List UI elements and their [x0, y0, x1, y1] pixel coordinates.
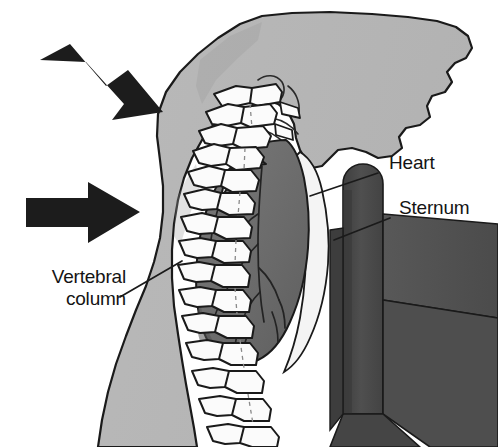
vertebra	[184, 189, 255, 215]
vertebra	[181, 213, 252, 239]
sternum-flange-lower	[383, 300, 498, 447]
force-arrows	[26, 44, 163, 243]
vertebra	[182, 313, 254, 338]
vertebra	[179, 238, 251, 263]
vertebra	[206, 104, 277, 127]
label-vertebral-column-line-1: Vertebral	[52, 266, 126, 287]
label-vertebral-column-line-2: column	[66, 288, 126, 309]
illustration-canvas	[0, 0, 498, 447]
anatomical-illustration: Heart Sternum Vertebral column	[0, 0, 498, 447]
vertebra	[186, 340, 258, 365]
vertebra	[193, 144, 264, 170]
sternum-edge-left	[330, 228, 343, 430]
vertebra	[199, 396, 271, 421]
vertebra	[207, 424, 279, 447]
sternum-shadow-left	[343, 190, 352, 414]
force-arrow-lower	[26, 182, 140, 243]
vertebra	[192, 368, 264, 393]
force-arrow-upper	[40, 44, 163, 120]
vertebra	[179, 287, 251, 312]
vertebra	[178, 262, 250, 287]
label-heart: Heart	[389, 152, 434, 174]
label-sternum: Sternum	[399, 197, 469, 219]
label-vertebral-column: Vertebral column	[18, 266, 126, 310]
